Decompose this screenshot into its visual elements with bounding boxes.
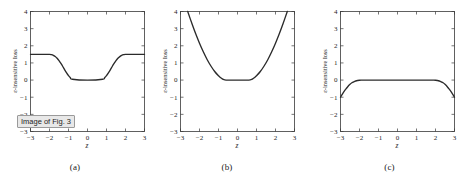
- ytick-label: −1: [170, 94, 178, 102]
- ytick-label: 0: [174, 76, 178, 84]
- xtick-label: 3: [293, 134, 297, 142]
- plot-svg-c: −3−2−10123 −3−2−101234 z ε-insensitive l…: [312, 0, 467, 175]
- xtick-label: 1: [415, 134, 419, 142]
- plot-a-curve: [31, 54, 145, 80]
- ytick-label: 3: [174, 25, 178, 33]
- xtick-label: 2: [124, 134, 128, 142]
- ytick-label: 2: [174, 42, 178, 50]
- ytick-label: 1: [334, 59, 338, 67]
- panel-c-caption: (c): [312, 162, 467, 172]
- plot-panel-b: −3−2−10123 −3−2−101234 z ε-insensitive l…: [152, 0, 302, 175]
- ytick-label: 0: [334, 76, 338, 84]
- ytick-label: 4: [334, 8, 338, 16]
- plot-b-curve: [188, 12, 288, 81]
- plot-c-ylabel: ε-insensitive loss: [321, 49, 328, 93]
- ytick-label: −1: [330, 94, 338, 102]
- plot-svg-a: −3−2−10123 −3−2−101234 z ε-insensitive l…: [0, 0, 150, 175]
- xtick-label: −1: [375, 134, 383, 142]
- ytick-label: 4: [24, 8, 28, 16]
- xtick-label: −2: [196, 134, 204, 142]
- plot-c-axes: −3−2−10123 −3−2−101234: [330, 8, 457, 142]
- plot-a-ylabel: ε-insensitive loss: [11, 49, 18, 93]
- plot-panel-a: −3−2−10123 −3−2−101234 z ε-insensitive l…: [0, 0, 150, 175]
- plot-b-yticklabels: −3−2−101234: [170, 8, 178, 136]
- ytick-label: 3: [24, 25, 28, 33]
- xtick-label: 3: [143, 134, 147, 142]
- plot-panel-c: −3−2−10123 −3−2−101234 z ε-insensitive l…: [312, 0, 467, 175]
- image-tooltip-label: Image of Fig. 3: [21, 117, 71, 126]
- plot-c-yticks: [341, 12, 455, 132]
- plot-b-xticks: [181, 12, 295, 132]
- ytick-label: −3: [330, 128, 338, 136]
- xtick-label: −3: [337, 134, 345, 142]
- plot-b-axes: −3−2−10123 −3−2−101234: [170, 8, 297, 142]
- ytick-label: −2: [170, 111, 178, 119]
- plot-a-frame: [31, 12, 145, 132]
- xtick-label: −3: [27, 134, 35, 142]
- xtick-label: −2: [356, 134, 364, 142]
- plot-a-xticks: [31, 12, 145, 132]
- plot-b-ylabel: ε-insensitive loss: [161, 49, 168, 93]
- ytick-label: −1: [20, 94, 28, 102]
- plot-c-xlabel: z: [395, 141, 399, 150]
- xtick-label: −3: [177, 134, 185, 142]
- xtick-label: 3: [453, 134, 457, 142]
- plot-svg-b: −3−2−10123 −3−2−101234 z ε-insensitive l…: [152, 0, 302, 175]
- ytick-label: 1: [24, 59, 28, 67]
- xtick-label: −1: [65, 134, 73, 142]
- ytick-label: 0: [24, 76, 28, 84]
- plot-b-xlabel: z: [235, 141, 239, 150]
- xtick-label: 2: [434, 134, 438, 142]
- plot-c-frame: [341, 12, 455, 132]
- plot-a-yticks: [31, 12, 145, 132]
- plot-b-yticks: [181, 12, 295, 132]
- plot-c-yticklabels: −3−2−101234: [330, 8, 338, 136]
- image-tooltip[interactable]: Image of Fig. 3: [17, 115, 75, 128]
- ytick-label: 2: [24, 42, 28, 50]
- xtick-label: 1: [255, 134, 259, 142]
- ytick-label: −3: [170, 128, 178, 136]
- ytick-label: 2: [334, 42, 338, 50]
- ytick-label: −2: [330, 111, 338, 119]
- figure-container: −3−2−10123 −3−2−101234 z ε-insensitive l…: [0, 0, 467, 175]
- plot-c-curve: [341, 80, 455, 97]
- panel-b-caption: (b): [152, 162, 302, 172]
- xtick-label: 2: [274, 134, 278, 142]
- ytick-label: 4: [174, 8, 178, 16]
- plot-a-xlabel: z: [85, 141, 89, 150]
- ytick-label: 1: [174, 59, 178, 67]
- xtick-label: 1: [105, 134, 109, 142]
- xtick-label: −2: [46, 134, 54, 142]
- xtick-label: −1: [215, 134, 223, 142]
- ytick-label: −3: [20, 128, 28, 136]
- plot-b-frame: [181, 12, 295, 132]
- panel-a-caption: (a): [0, 162, 150, 172]
- ytick-label: 3: [334, 25, 338, 33]
- plot-c-xticks: [341, 12, 455, 132]
